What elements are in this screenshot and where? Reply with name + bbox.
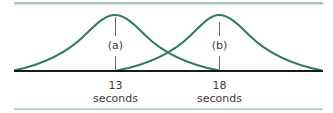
baseline-axis [14, 70, 323, 72]
tick-label-13: 13 [109, 79, 123, 92]
curve-b-label: (b) [212, 39, 228, 52]
tick-label-18: 18 [213, 79, 227, 92]
normal-distributions-diagram: (a) (b) 13 seconds 18 seconds [0, 0, 333, 113]
tick-unit-18: seconds [197, 92, 242, 105]
bottom-rule [14, 109, 323, 111]
curve-a-label: (a) [108, 39, 123, 52]
top-rule [14, 2, 323, 5]
tick-unit-13: seconds [93, 92, 138, 105]
